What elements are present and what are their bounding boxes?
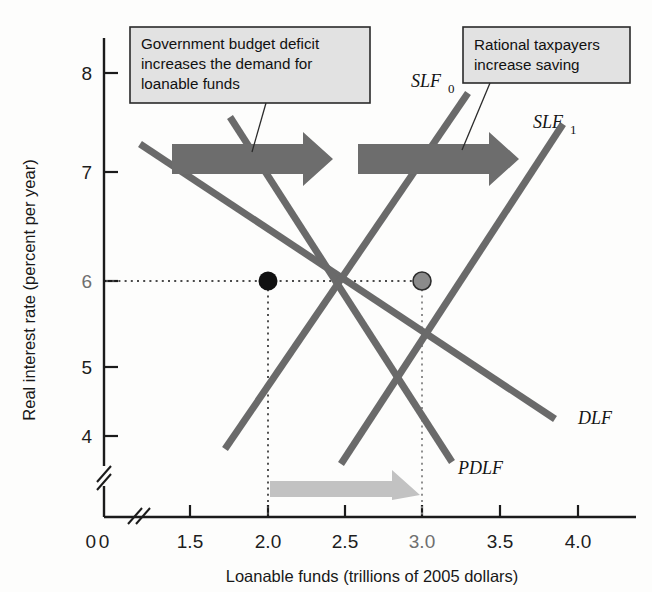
saving-callout-line-2: increase saving: [474, 56, 580, 73]
curve-label-slf0: SLF: [411, 71, 442, 91]
y-tick-label-0: 0: [85, 531, 96, 552]
y-axis-title: Real interest rate (percent per year): [20, 159, 38, 420]
y-tick-label-7: 7: [81, 162, 92, 183]
new-equilibrium-dot: [413, 272, 431, 290]
chart-canvas: 8 7 6 5 4 0 0 1.5 2.0 2.5 3.0 3.5 4.0 Lo…: [0, 0, 652, 592]
curve-label-slf1: SLF: [533, 112, 564, 132]
x-tick-label-3-0: 3.0: [409, 531, 435, 552]
x-axis-title: Loanable funds (trillions of 2005 dollar…: [226, 567, 519, 585]
curve-label-slf1-subscript: 1: [570, 122, 577, 137]
deficit-callout-line-2: increases the demand for: [141, 55, 312, 72]
x-tick-label-0: 0: [99, 531, 110, 552]
saving-callout-line-1: Rational taxpayers: [474, 36, 600, 53]
reference-lines-group: [106, 281, 424, 516]
curve-label-dlf: DLF: [577, 408, 613, 428]
deficit-callout: Government budget deficit increases the …: [130, 27, 370, 152]
y-tick-label-4: 4: [81, 426, 92, 447]
curve-slf1: [341, 124, 563, 464]
x-tick-label-4-0: 4.0: [565, 531, 591, 552]
curve-label-pdlf: PDLF: [457, 458, 504, 478]
quantity-increase-arrow: [270, 470, 420, 500]
loanable-funds-market-figure: 8 7 6 5 4 0 0 1.5 2.0 2.5 3.0 3.5 4.0 Lo…: [0, 0, 652, 592]
x-tick-label-3-5: 3.5: [487, 531, 513, 552]
curve-label-slf0-subscript: 0: [448, 81, 455, 96]
y-tick-label-6: 6: [81, 271, 92, 292]
y-tick-label-5: 5: [81, 357, 92, 378]
y-axis-break-mark-1: [97, 466, 111, 482]
x-tick-label-1-5: 1.5: [177, 531, 203, 552]
x-tick-label-2-5: 2.5: [332, 531, 358, 552]
y-tick-label-8: 8: [81, 63, 92, 84]
deficit-callout-line-3: loanable funds: [141, 75, 240, 92]
x-ticks-group: 0 1.5 2.0 2.5 3.0 3.5 4.0: [99, 505, 592, 552]
x-tick-label-2-0: 2.0: [255, 531, 281, 552]
curve-dlf: [140, 144, 555, 419]
initial-equilibrium-dot: [259, 272, 278, 291]
deficit-callout-line-1: Government budget deficit: [141, 35, 320, 52]
